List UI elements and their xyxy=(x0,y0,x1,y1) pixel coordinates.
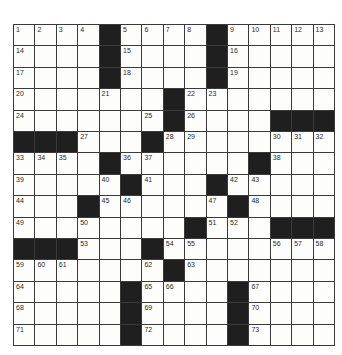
grid-cell[interactable] xyxy=(314,175,334,195)
grid-cell[interactable] xyxy=(57,175,77,195)
grid-cell[interactable] xyxy=(271,68,291,88)
grid-cell[interactable] xyxy=(249,89,269,109)
grid-cell[interactable] xyxy=(292,282,312,302)
grid-cell[interactable]: 9 xyxy=(228,25,248,45)
grid-cell[interactable] xyxy=(78,111,98,131)
grid-cell[interactable] xyxy=(57,303,77,323)
grid-cell[interactable] xyxy=(292,303,312,323)
grid-cell[interactable]: 53 xyxy=(78,239,98,259)
grid-cell[interactable] xyxy=(185,175,205,195)
grid-cell[interactable] xyxy=(292,89,312,109)
grid-cell[interactable]: 56 xyxy=(271,239,291,259)
grid-cell[interactable] xyxy=(292,68,312,88)
grid-cell[interactable] xyxy=(100,218,120,238)
grid-cell[interactable] xyxy=(185,196,205,216)
grid-cell[interactable] xyxy=(185,303,205,323)
grid-cell[interactable]: 16 xyxy=(228,46,248,66)
grid-cell[interactable] xyxy=(100,111,120,131)
grid-cell[interactable] xyxy=(207,260,227,280)
grid-cell[interactable]: 20 xyxy=(14,89,34,109)
grid-cell[interactable]: 24 xyxy=(14,111,34,131)
grid-cell[interactable]: 57 xyxy=(292,239,312,259)
grid-cell[interactable]: 36 xyxy=(121,153,141,173)
grid-cell[interactable]: 4 xyxy=(78,25,98,45)
grid-cell[interactable] xyxy=(57,282,77,302)
grid-cell[interactable]: 72 xyxy=(142,325,162,345)
grid-cell[interactable]: 70 xyxy=(249,303,269,323)
grid-cell[interactable] xyxy=(228,153,248,173)
grid-cell[interactable] xyxy=(292,175,312,195)
grid-cell[interactable] xyxy=(271,46,291,66)
grid-cell[interactable]: 18 xyxy=(121,68,141,88)
grid-cell[interactable] xyxy=(314,89,334,109)
grid-cell[interactable] xyxy=(249,218,269,238)
grid-cell[interactable] xyxy=(142,218,162,238)
grid-cell[interactable] xyxy=(314,303,334,323)
grid-cell[interactable]: 42 xyxy=(228,175,248,195)
grid-cell[interactable] xyxy=(185,325,205,345)
grid-cell[interactable] xyxy=(292,46,312,66)
grid-cell[interactable] xyxy=(271,282,291,302)
grid-cell[interactable] xyxy=(228,239,248,259)
grid-cell[interactable] xyxy=(228,260,248,280)
grid-cell[interactable]: 30 xyxy=(271,132,291,152)
grid-cell[interactable] xyxy=(142,46,162,66)
grid-cell[interactable]: 8 xyxy=(185,25,205,45)
grid-cell[interactable]: 34 xyxy=(35,153,55,173)
grid-cell[interactable]: 31 xyxy=(292,132,312,152)
grid-cell[interactable]: 58 xyxy=(314,239,334,259)
grid-cell[interactable] xyxy=(228,111,248,131)
grid-cell[interactable] xyxy=(164,196,184,216)
grid-cell[interactable] xyxy=(249,68,269,88)
grid-cell[interactable]: 62 xyxy=(142,260,162,280)
grid-cell[interactable] xyxy=(35,218,55,238)
grid-cell[interactable] xyxy=(35,46,55,66)
grid-cell[interactable] xyxy=(271,303,291,323)
grid-cell[interactable]: 17 xyxy=(14,68,34,88)
grid-cell[interactable] xyxy=(164,303,184,323)
grid-cell[interactable] xyxy=(100,282,120,302)
grid-cell[interactable] xyxy=(164,218,184,238)
grid-cell[interactable]: 41 xyxy=(142,175,162,195)
grid-cell[interactable]: 15 xyxy=(121,46,141,66)
grid-cell[interactable]: 66 xyxy=(164,282,184,302)
grid-cell[interactable]: 48 xyxy=(249,196,269,216)
grid-cell[interactable] xyxy=(314,68,334,88)
grid-cell[interactable] xyxy=(35,68,55,88)
grid-cell[interactable] xyxy=(185,68,205,88)
grid-cell[interactable]: 7 xyxy=(164,25,184,45)
grid-cell[interactable] xyxy=(185,282,205,302)
grid-cell[interactable] xyxy=(314,260,334,280)
grid-cell[interactable] xyxy=(249,46,269,66)
grid-cell[interactable]: 12 xyxy=(292,25,312,45)
grid-cell[interactable] xyxy=(271,196,291,216)
grid-cell[interactable]: 38 xyxy=(271,153,291,173)
grid-cell[interactable]: 14 xyxy=(14,46,34,66)
grid-cell[interactable] xyxy=(121,239,141,259)
grid-cell[interactable] xyxy=(78,153,98,173)
grid-cell[interactable]: 68 xyxy=(14,303,34,323)
grid-cell[interactable] xyxy=(121,89,141,109)
grid-cell[interactable]: 25 xyxy=(142,111,162,131)
grid-cell[interactable] xyxy=(100,325,120,345)
grid-cell[interactable]: 23 xyxy=(207,89,227,109)
grid-cell[interactable]: 52 xyxy=(228,218,248,238)
grid-cell[interactable]: 21 xyxy=(100,89,120,109)
grid-cell[interactable]: 40 xyxy=(100,175,120,195)
grid-cell[interactable] xyxy=(121,260,141,280)
grid-cell[interactable] xyxy=(207,325,227,345)
grid-cell[interactable]: 45 xyxy=(100,196,120,216)
grid-cell[interactable] xyxy=(164,325,184,345)
grid-cell[interactable] xyxy=(100,132,120,152)
grid-cell[interactable]: 59 xyxy=(14,260,34,280)
grid-cell[interactable] xyxy=(57,111,77,131)
grid-cell[interactable] xyxy=(57,218,77,238)
grid-cell[interactable]: 5 xyxy=(121,25,141,45)
grid-cell[interactable] xyxy=(271,260,291,280)
grid-cell[interactable] xyxy=(207,239,227,259)
grid-cell[interactable] xyxy=(164,153,184,173)
grid-cell[interactable]: 33 xyxy=(14,153,34,173)
grid-cell[interactable]: 37 xyxy=(142,153,162,173)
grid-cell[interactable] xyxy=(35,196,55,216)
grid-cell[interactable] xyxy=(228,89,248,109)
